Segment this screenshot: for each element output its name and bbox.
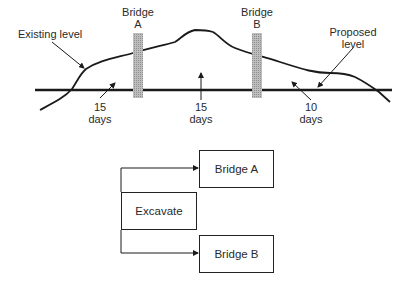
bridge-b-box: Bridge B (199, 235, 274, 273)
bridge-a-label-line2: A (118, 18, 158, 30)
proposed-level-line1: Proposed (328, 26, 378, 38)
bridge-b-label-line1: Bridge (237, 6, 277, 18)
proposed-level-line2: level (328, 38, 378, 50)
existing-level-label: Existing level (18, 28, 82, 40)
bridge-a-label-line1: Bridge (118, 6, 158, 18)
bridge-a-pillar (133, 33, 143, 98)
duration-value: 10 (297, 101, 325, 113)
bridge-a-box-label: Bridge A (215, 163, 258, 175)
bridge-b-pillar (252, 33, 262, 98)
excavate-label: Excavate (135, 205, 182, 217)
proposed-level-label: Proposed level (328, 26, 378, 50)
bridge-b-label-line2: B (237, 18, 277, 30)
duration-unit: days (297, 113, 325, 125)
bridge-b-label: Bridge B (237, 6, 277, 30)
duration-value: 15 (187, 101, 215, 113)
duration-label-3: 10 days (297, 101, 325, 125)
bridge-b-box-label: Bridge B (214, 248, 258, 260)
duration-unit: days (86, 113, 114, 125)
duration-label-2: 15 days (187, 101, 215, 125)
duration-value: 15 (86, 101, 114, 113)
proposed-level-arrow (318, 48, 353, 87)
excavate-box: Excavate (121, 192, 197, 230)
existing-level-arrow (52, 42, 84, 68)
duration-label-1: 15 days (86, 101, 114, 125)
bridge-a-box: Bridge A (199, 150, 274, 188)
bridge-a-label: Bridge A (118, 6, 158, 30)
connector-to-bridge-a (121, 168, 198, 192)
connector-to-bridge-b (121, 230, 198, 253)
duration-unit: days (187, 113, 215, 125)
